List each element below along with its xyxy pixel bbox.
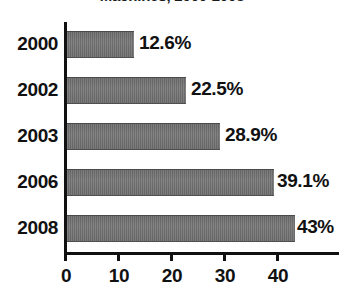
bar-2002 <box>67 77 186 104</box>
x-tick-label-10: 10 <box>109 265 129 287</box>
bar-row: 2008 43% <box>0 206 344 252</box>
value-label-2000: 12.6% <box>139 32 191 54</box>
category-label-2003: 2003 <box>0 125 58 147</box>
bar-row: 2003 28.9% <box>0 114 344 160</box>
x-tick-label-40: 40 <box>268 265 288 287</box>
bar-2006 <box>67 169 274 196</box>
x-tick-30 <box>223 252 226 261</box>
x-tick-label-30: 30 <box>215 265 235 287</box>
bar-row: 2002 22.5% <box>0 68 344 114</box>
x-tick-label-0: 0 <box>61 265 71 287</box>
x-tick-10 <box>117 252 120 261</box>
x-tick-20 <box>170 252 173 261</box>
bar-2000 <box>67 31 134 58</box>
bar-row: 2006 39.1% <box>0 160 344 206</box>
bar-2003 <box>67 123 220 150</box>
category-label-2008: 2008 <box>0 217 58 239</box>
value-label-2003: 28.9% <box>225 124 277 146</box>
bar-2008 <box>67 215 295 242</box>
category-label-2002: 2002 <box>0 79 58 101</box>
value-label-2002: 22.5% <box>191 78 243 100</box>
x-tick-0 <box>64 252 67 261</box>
category-label-2006: 2006 <box>0 171 58 193</box>
x-axis-line <box>64 252 339 255</box>
x-tick-40 <box>276 252 279 261</box>
value-label-2006: 39.1% <box>277 170 329 192</box>
bar-chart: Machines, 2000-2008 2000 12.6% 2002 22.5… <box>0 0 344 303</box>
x-tick-label-20: 20 <box>162 265 182 287</box>
bar-row: 2000 12.6% <box>0 22 344 68</box>
category-label-2000: 2000 <box>0 33 58 55</box>
value-label-2008: 43% <box>297 216 334 238</box>
plot-area: 2000 12.6% 2002 22.5% 2003 28.9% 2006 39… <box>0 0 344 303</box>
